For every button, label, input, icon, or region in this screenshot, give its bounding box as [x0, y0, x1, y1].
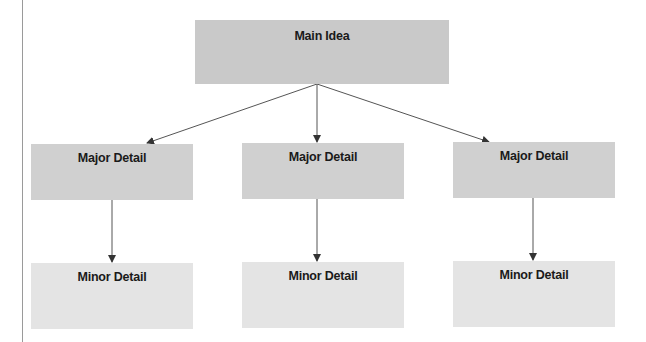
- major-detail-label: Major Detail: [78, 151, 146, 165]
- arrow-main-to-major-3: [317, 84, 489, 142]
- minor-detail-label: Minor Detail: [77, 270, 146, 284]
- major-detail-box-1: Major Detail: [31, 144, 193, 200]
- major-detail-box-2: Major Detail: [242, 143, 404, 199]
- main-idea-label: Main Idea: [294, 29, 349, 43]
- minor-detail-box-3: Minor Detail: [453, 261, 615, 327]
- minor-detail-label: Minor Detail: [288, 269, 357, 283]
- minor-detail-label: Minor Detail: [499, 268, 568, 282]
- major-detail-label: Major Detail: [289, 150, 357, 164]
- major-detail-label: Major Detail: [500, 149, 568, 163]
- major-detail-box-3: Major Detail: [453, 142, 615, 198]
- arrow-main-to-major-1: [147, 84, 317, 143]
- minor-detail-box-2: Minor Detail: [242, 262, 404, 328]
- main-idea-box: Main Idea: [195, 20, 449, 84]
- minor-detail-box-1: Minor Detail: [31, 263, 193, 329]
